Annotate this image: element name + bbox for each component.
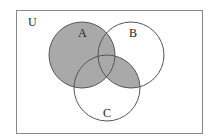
universe-label: U bbox=[28, 15, 37, 29]
label-a: A bbox=[78, 26, 87, 40]
venn-diagram: U A B C bbox=[0, 0, 212, 137]
label-b: B bbox=[129, 26, 137, 40]
label-c: C bbox=[103, 106, 111, 120]
